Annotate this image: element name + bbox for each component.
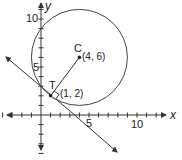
tangent-line: [70, 111, 117, 152]
x-tick-label-10: 10: [131, 118, 143, 130]
coordinate-plane: y x 10 5 5 10 C (4, 6) T (1, 2): [0, 0, 182, 160]
diagram-canvas: y x 10 5 5 10 C (4, 6) T (1, 2): [0, 0, 182, 160]
center-point: [78, 56, 82, 60]
y-tick-label-10: 10: [26, 12, 38, 24]
x-tick-label-5: 5: [86, 117, 92, 129]
axis-ticks: [3, 9, 157, 153]
center-point-name: C: [74, 42, 82, 54]
tangent-point: [49, 94, 53, 98]
center-point-coords: (4, 6): [82, 51, 105, 62]
y-axis-label: y: [44, 0, 52, 13]
tangent-point-coords: (1, 2): [60, 88, 83, 99]
x-axis-label: x: [169, 108, 177, 122]
y-tick-label-5: 5: [33, 61, 39, 73]
tangent-point-name: T: [49, 79, 56, 91]
